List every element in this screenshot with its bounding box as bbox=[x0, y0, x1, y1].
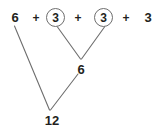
expression-term-6: 6 bbox=[8, 11, 22, 24]
node-total-sum-12: 12 bbox=[43, 114, 61, 127]
expression-operator-plus-2: + bbox=[71, 12, 85, 24]
expression-term-3-last: 3 bbox=[141, 11, 155, 24]
expression-term-circled-3-first: 3 bbox=[46, 8, 65, 27]
circled-3-first-value: 3 bbox=[52, 12, 59, 24]
connector-term6-to-node12 bbox=[15, 26, 50, 110]
expression-operator-plus-1: + bbox=[29, 12, 43, 24]
circled-3-second-value: 3 bbox=[100, 12, 107, 24]
connector-circled3-left-to-node6 bbox=[58, 27, 81, 59]
number-bond-diagram: 6 + 3 + 3 + 3 6 12 bbox=[0, 0, 160, 129]
connector-circled3-right-to-node6 bbox=[82, 27, 105, 59]
expression-term-circled-3-second: 3 bbox=[94, 8, 113, 27]
connector-node6-to-node12 bbox=[51, 74, 79, 110]
expression-operator-plus-3: + bbox=[119, 12, 133, 24]
node-intermediate-sum-6: 6 bbox=[74, 63, 88, 76]
